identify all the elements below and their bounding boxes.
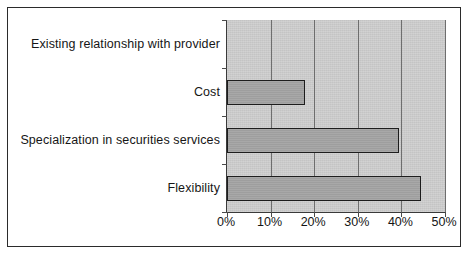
- plot-area: [226, 20, 445, 213]
- figure-frame: Existing relationship with provider Cost…: [7, 7, 461, 247]
- category-tick-mark-3: [222, 164, 227, 165]
- category-tick-mark-1: [222, 68, 227, 69]
- bar-texture: [228, 177, 420, 200]
- value-axis-label-10%: 10%: [257, 215, 282, 229]
- category-tick-2: Specialization in securities services: [22, 116, 225, 164]
- value-axis-label-20%: 20%: [301, 215, 326, 229]
- bar-texture: [228, 129, 398, 152]
- bar-flexibility: [227, 176, 421, 201]
- value-axis-label-50%: 50%: [431, 215, 456, 229]
- category-label-cost: Cost: [194, 85, 225, 99]
- bar-texture: [228, 81, 304, 104]
- category-tick-mark-0: [222, 20, 227, 21]
- bar-specialization-in-securities-services: [227, 128, 399, 153]
- bar-cost: [227, 80, 305, 105]
- category-label-existing-relationship-with-provider: Existing relationship with provider: [31, 37, 225, 51]
- category-tick-mark-2: [222, 116, 227, 117]
- category-tick-1: Cost: [22, 68, 225, 116]
- value-axis-label-40%: 40%: [388, 215, 413, 229]
- value-axis-labels: 0%10%20%30%40%50%: [226, 215, 446, 235]
- gridline-50%: [445, 20, 446, 212]
- category-label-flexibility: Flexibility: [168, 181, 226, 195]
- value-axis-label-30%: 30%: [344, 215, 369, 229]
- chart-figure: Existing relationship with provider Cost…: [0, 0, 470, 257]
- category-tick-3: Flexibility: [22, 164, 225, 212]
- category-tick-0: Existing relationship with provider: [22, 20, 225, 68]
- value-axis-label-0%: 0%: [217, 215, 235, 229]
- category-axis: Existing relationship with provider Cost…: [22, 20, 225, 212]
- category-label-specialization-in-securities-services: Specialization in securities services: [20, 133, 225, 147]
